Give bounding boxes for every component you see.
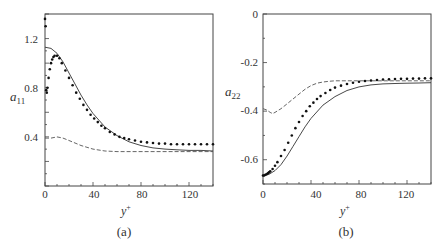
data-point [319, 95, 322, 98]
panel-a-xtick-80: 80 [137, 188, 149, 200]
data-point [89, 113, 92, 116]
panel-a-xtick-0: 0 [42, 188, 48, 200]
data-point [71, 84, 74, 87]
data-point [206, 143, 209, 146]
data-point [86, 109, 89, 112]
data-point [334, 86, 337, 89]
data-point [280, 155, 283, 158]
data-point [312, 101, 315, 104]
data-point [47, 77, 50, 80]
data-point [298, 121, 301, 124]
data-point [424, 77, 427, 80]
data-point [200, 143, 203, 146]
data-point [109, 131, 112, 134]
data-point [276, 161, 279, 164]
data-point [58, 57, 61, 60]
data-point [294, 127, 297, 130]
data-point [346, 83, 349, 86]
data-point [44, 18, 47, 21]
data-point [46, 86, 49, 89]
data-point [158, 142, 161, 145]
panel-a-ytick-0.8: 0.8 [24, 82, 38, 94]
data-point [79, 97, 82, 100]
data-point [113, 133, 116, 136]
data-point [340, 84, 343, 87]
data-point [45, 89, 48, 92]
panel-b-plot: 0 40 80 120 0 -0.2 -0.4 -0.6 a22 y+ (b) [225, 8, 432, 239]
panel-b-xlabel: y+ [339, 203, 350, 218]
data-point [123, 137, 126, 140]
panel-b-frame [263, 14, 431, 184]
data-point [324, 92, 327, 95]
panel-a-frame [45, 14, 213, 186]
panel-a-caption: (a) [117, 224, 131, 239]
panel-a-xlabel: y+ [120, 203, 131, 218]
panel-a-xtick-40: 40 [89, 188, 101, 200]
data-point [56, 54, 59, 57]
data-point [271, 168, 274, 171]
data-point [182, 143, 185, 146]
data-point [329, 89, 332, 92]
data-point [44, 25, 47, 28]
panel-b-ytick-m0.4: -0.4 [241, 104, 259, 116]
panel-b-xtick-80: 80 [356, 188, 368, 200]
panel-a-ytick-0.4: 0.4 [24, 131, 38, 143]
data-point [394, 78, 397, 81]
data-point [316, 98, 319, 101]
data-point [152, 142, 155, 145]
data-point [118, 136, 121, 139]
data-point [388, 78, 391, 81]
panel-b-xtick-0: 0 [260, 188, 266, 200]
data-point [51, 58, 54, 61]
data-point [291, 134, 294, 137]
data-point [93, 117, 96, 120]
panel-b-caption: (b) [338, 224, 353, 239]
data-point [406, 78, 409, 81]
data-point [352, 81, 355, 84]
data-point [309, 105, 312, 108]
panel-b-ylabel: a22 [225, 84, 241, 101]
data-point [188, 143, 191, 146]
data-point [61, 62, 64, 65]
data-point [194, 143, 197, 146]
data-point [140, 140, 143, 143]
data-point [64, 69, 67, 72]
data-point [53, 54, 56, 57]
data-point [75, 91, 78, 94]
panel-a-xtick-120: 120 [182, 188, 199, 200]
data-point [68, 77, 71, 80]
panel-a-ytick-1.2: 1.2 [24, 33, 38, 45]
data-point [49, 68, 52, 71]
data-point [82, 104, 85, 107]
panel-a-ticks [45, 14, 213, 186]
solid-line [45, 47, 213, 151]
data-point [269, 170, 272, 173]
data-point [46, 91, 49, 94]
data-point [97, 121, 100, 124]
data-point [176, 143, 179, 146]
data-point [418, 77, 421, 80]
panel-a-ylabel: a11 [10, 89, 25, 106]
data-point [170, 143, 173, 146]
data-point [100, 125, 103, 128]
data-point [430, 77, 433, 80]
panel-b-xtick-40: 40 [311, 188, 323, 200]
data-point [128, 138, 131, 141]
panel-a-plot: 0 40 80 120 1.2 0.8 0.4 a11 y+ (a) [10, 14, 214, 239]
data-point [412, 77, 415, 80]
data-point [287, 141, 290, 144]
dashed-line [263, 81, 431, 114]
panel-a-series [44, 18, 215, 152]
data-point [164, 142, 167, 145]
data-point [274, 164, 277, 167]
panel-b-ytick-m0.6: -0.6 [241, 153, 259, 165]
panel-b-series [262, 77, 433, 177]
figure: 0 40 80 120 1.2 0.8 0.4 a11 y+ (a) 0 40 … [0, 0, 440, 244]
data-point [305, 110, 308, 113]
data-point [146, 141, 149, 144]
data-point [134, 139, 137, 142]
solid-line [263, 83, 431, 176]
data-point [104, 127, 107, 130]
data-point [50, 62, 53, 65]
panel-b-ticks [263, 14, 431, 184]
